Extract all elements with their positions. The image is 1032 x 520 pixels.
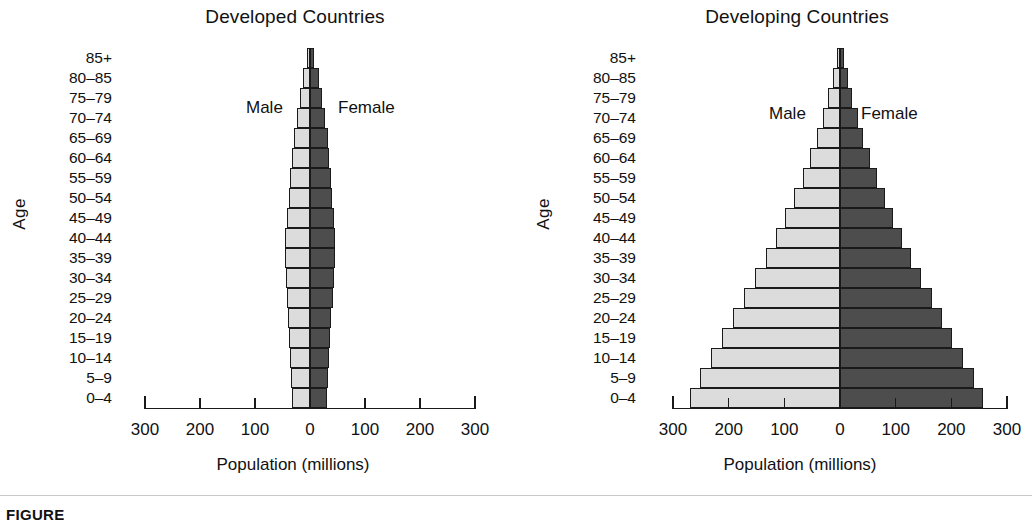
pyramid-row xyxy=(673,348,1007,368)
plot-area-developing: 3002001000100200300 xyxy=(673,48,1007,408)
axis-x-tick-label: 300 xyxy=(993,420,1021,440)
pyramid-row xyxy=(145,128,475,148)
bar-male xyxy=(828,88,840,108)
bar-male xyxy=(289,328,310,348)
age-tick-label: 85+ xyxy=(40,48,112,68)
pyramid-row xyxy=(673,48,1007,68)
axis-x-tick-label: 300 xyxy=(659,420,687,440)
age-tick-label: 5–9 xyxy=(40,368,112,388)
age-tick-label: 35–39 xyxy=(564,248,636,268)
age-tick-label: 60–64 xyxy=(564,148,636,168)
bar-female xyxy=(840,148,870,168)
axis-x-tick-label: 200 xyxy=(186,420,214,440)
pyramid-row xyxy=(673,368,1007,388)
bar-female xyxy=(840,368,974,388)
age-tick-label: 80–85 xyxy=(40,68,112,88)
axis-y-title-right: Age xyxy=(534,198,554,230)
axis-x-tick-label: 200 xyxy=(714,420,742,440)
bar-male xyxy=(297,108,310,128)
bar-female xyxy=(840,68,848,88)
bar-female xyxy=(840,208,893,228)
bar-male xyxy=(291,368,310,388)
age-tick-label: 10–14 xyxy=(564,348,636,368)
bar-female xyxy=(310,88,322,108)
bar-female xyxy=(840,128,863,148)
pyramid-row xyxy=(145,68,475,88)
bar-male xyxy=(287,288,310,308)
axis-x-labels-left: 3002001000100200300 xyxy=(145,420,475,444)
pyramid-row xyxy=(145,148,475,168)
pyramid-row xyxy=(673,228,1007,248)
pyramid-row xyxy=(145,288,475,308)
pyramid-row xyxy=(145,368,475,388)
age-tick-label: 15–19 xyxy=(564,328,636,348)
axis-y-title-left: Age xyxy=(10,198,30,230)
axis-x-tick xyxy=(728,398,730,409)
axis-x-tick xyxy=(364,398,366,409)
series-label-female-right: Female xyxy=(861,104,918,124)
series-label-male-right: Male xyxy=(769,104,806,124)
pyramid-row xyxy=(673,148,1007,168)
pyramid-row xyxy=(673,208,1007,228)
axis-x-tick-label: 0 xyxy=(305,420,314,440)
bar-male xyxy=(300,88,310,108)
age-tick-label: 0–4 xyxy=(564,388,636,408)
axis-x-title-right: Population (millions) xyxy=(516,455,1032,475)
bar-male xyxy=(776,228,840,248)
axis-x-tick-label: 0 xyxy=(835,420,844,440)
bar-male xyxy=(285,248,310,268)
bar-female xyxy=(310,348,329,368)
bar-male xyxy=(823,108,840,128)
axis-x-tick-label: 100 xyxy=(351,420,379,440)
bar-female xyxy=(840,188,885,208)
axis-x-tick xyxy=(895,398,897,409)
bar-rows-developing xyxy=(673,48,1007,408)
pyramid-row xyxy=(145,108,475,128)
age-tick-label: 55–59 xyxy=(564,168,636,188)
axis-x-tick-label: 100 xyxy=(881,420,909,440)
age-tick-label: 30–34 xyxy=(40,268,112,288)
bar-female xyxy=(840,308,942,328)
axis-x-tick xyxy=(419,398,421,409)
pyramid-row xyxy=(673,168,1007,188)
bar-female xyxy=(310,168,331,188)
pyramid-row xyxy=(673,68,1007,88)
age-tick-label: 25–29 xyxy=(564,288,636,308)
bar-male xyxy=(292,148,310,168)
bar-female xyxy=(840,168,877,188)
age-tick-label: 55–59 xyxy=(40,168,112,188)
axis-x-tick xyxy=(254,398,256,409)
bar-female xyxy=(840,388,983,408)
axis-x-tick xyxy=(309,398,311,409)
bar-male xyxy=(290,348,310,368)
axis-x-tick-label: 200 xyxy=(406,420,434,440)
pyramid-row xyxy=(145,248,475,268)
age-tick-label: 40–44 xyxy=(564,228,636,248)
axis-x-tick xyxy=(951,398,953,409)
axis-x-tick xyxy=(784,398,786,409)
axis-x-labels-right: 3002001000100200300 xyxy=(673,420,1007,444)
bar-male xyxy=(733,308,840,328)
bar-male xyxy=(810,148,840,168)
bar-male xyxy=(722,328,840,348)
axis-x-tick xyxy=(474,396,476,409)
age-tick-label: 35–39 xyxy=(40,248,112,268)
pyramid-row xyxy=(145,268,475,288)
axis-y-ticks-right: 85+80–8575–7970–7465–6960–6455–5950–5445… xyxy=(564,48,636,408)
bar-male xyxy=(292,388,310,408)
pyramid-row xyxy=(145,188,475,208)
bar-male xyxy=(303,68,310,88)
bar-female xyxy=(310,368,328,388)
plot-area-developed: 3002001000100200300 xyxy=(145,48,475,408)
bar-female xyxy=(840,268,921,288)
bar-male xyxy=(288,308,310,328)
bar-male xyxy=(289,188,310,208)
pyramid-row xyxy=(145,348,475,368)
bar-male xyxy=(294,128,310,148)
bar-female xyxy=(310,188,332,208)
age-tick-label: 45–49 xyxy=(564,208,636,228)
pyramid-row xyxy=(673,328,1007,348)
axis-y-ticks-left: 85+80–8575–7970–7465–6960–6455–5950–5445… xyxy=(40,48,112,408)
age-tick-label: 75–79 xyxy=(564,88,636,108)
axis-x-tick-label: 100 xyxy=(770,420,798,440)
